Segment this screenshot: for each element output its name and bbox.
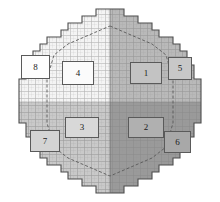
shade-tl: [0, 0, 110, 102]
region-label-5: 5: [168, 57, 192, 80]
figure-canvas: 1 2 3 4 5 6 7 8: [0, 0, 220, 202]
circular-mesh-diagram: [0, 0, 220, 202]
region-label-8: 8: [21, 55, 50, 79]
region-label-6-text: 6: [175, 138, 180, 147]
region-label-6: 6: [164, 131, 191, 153]
region-label-1: 1: [130, 62, 162, 84]
region-label-2: 2: [128, 117, 164, 138]
region-label-2-text: 2: [144, 123, 149, 132]
region-label-5-text: 5: [178, 64, 183, 73]
region-label-4-text: 4: [76, 69, 81, 78]
region-label-3-text: 3: [80, 123, 85, 132]
region-label-8-text: 8: [33, 63, 38, 72]
region-label-7: 7: [30, 130, 60, 152]
region-label-1-text: 1: [144, 69, 149, 78]
region-label-4: 4: [62, 61, 94, 85]
region-label-7-text: 7: [43, 137, 48, 146]
region-label-3: 3: [65, 117, 99, 138]
